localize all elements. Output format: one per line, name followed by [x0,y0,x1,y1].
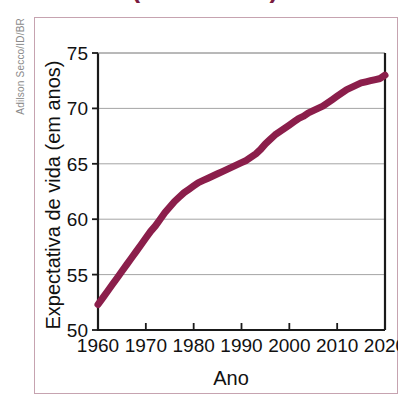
chart-area: 505560657075 196019701980199020002010202… [34,17,398,394]
x-tick-label: 1990 [220,335,262,356]
x-axis-tick-labels: 1960197019801990200020102020 [77,335,398,356]
data-series [98,75,385,304]
x-tick-label: 2020 [364,335,398,356]
x-tick-label: 1980 [173,335,215,356]
series-line [98,75,385,304]
y-axis-tick-labels: 505560657075 [67,43,88,341]
x-tick-label: 1970 [125,335,167,356]
line-chart: 505560657075 196019701980199020002010202… [34,17,398,394]
figure-title: (1960-2020) [0,0,410,5]
y-tick-label: 70 [67,98,88,119]
x-tick-label: 2000 [268,335,310,356]
y-axis-title: Expectativa de vida (em anos) [42,60,64,329]
credit-block: Adilson Secco/ID/BR [10,18,30,178]
x-tick-label: 1960 [77,335,119,356]
y-tick-label: 65 [67,154,88,175]
y-tick-label: 75 [67,43,88,64]
y-tick-label: 60 [67,209,88,230]
x-tick-label: 2010 [316,335,358,356]
x-axis-title: Ano [213,367,249,389]
credit-text: Adilson Secco/ID/BR [15,18,26,115]
y-tick-label: 55 [67,265,88,286]
